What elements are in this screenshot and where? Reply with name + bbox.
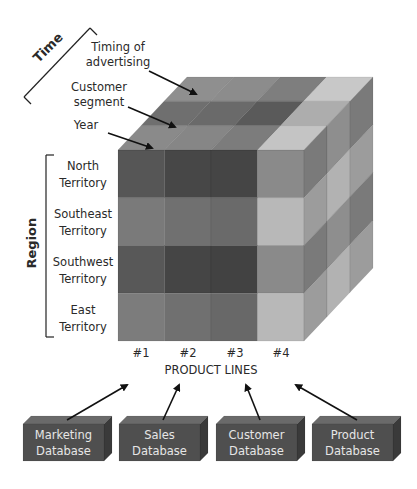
database-arrows (67, 385, 357, 420)
region-item-southeast: Southeast Territory (48, 206, 118, 240)
database-label-line: Database (23, 443, 104, 459)
database-box-top (216, 416, 305, 424)
database-label-line: Database (216, 443, 297, 459)
database-box-side (104, 416, 112, 461)
region-axis-label: Region (24, 223, 39, 269)
cube-cell (118, 198, 165, 246)
region-item-line: Territory (48, 175, 118, 192)
product-column-4: #4 (266, 346, 296, 360)
database-sales: Sales Database (119, 427, 200, 459)
region-item-southwest: Southwest Territory (48, 254, 118, 288)
database-customer: Customer Database (216, 427, 297, 459)
database-product: Product Database (312, 427, 393, 459)
region-item-line: Southeast (48, 206, 118, 223)
region-item-line: Territory (48, 319, 118, 336)
cube-cell (211, 198, 258, 246)
cube-cell (165, 198, 212, 246)
cube-cell (118, 246, 165, 294)
cube-cell (258, 198, 305, 246)
cube-cell (211, 150, 258, 198)
region-item-line: East (48, 302, 118, 319)
time-item-line: Year (70, 118, 102, 133)
cube-cell (258, 293, 305, 341)
database-box-side (200, 416, 208, 461)
product-axis-label: PRODUCT LINES (141, 363, 281, 377)
database-label-line: Database (312, 443, 393, 459)
region-item-east: East Territory (48, 302, 118, 336)
region-item-line: Territory (48, 223, 118, 240)
cube-cell (118, 293, 165, 341)
time-item-line: advertising (80, 55, 156, 70)
region-item-line: North (48, 158, 118, 175)
database-box-side (393, 416, 401, 461)
cube-cell (165, 150, 212, 198)
cube-cell (211, 246, 258, 294)
database-label-line: Customer (216, 427, 297, 443)
time-item-customer-segment: Customer segment (68, 80, 130, 110)
database-label-line: Product (312, 427, 393, 443)
cube-front-face (118, 150, 304, 341)
time-item-line: Customer (68, 80, 130, 95)
region-item-north: North Territory (48, 158, 118, 192)
region-item-line: Southwest (48, 254, 118, 271)
time-item-timing-of-advertising: Timing of advertising (80, 40, 156, 70)
time-item-year: Year (70, 118, 102, 133)
time-item-line: Timing of (80, 40, 156, 55)
database-box-side (297, 416, 305, 461)
cube-cell (211, 293, 258, 341)
cube-cell (165, 293, 212, 341)
olap-cube-diagram (0, 0, 417, 489)
database-label-line: Database (119, 443, 200, 459)
cube-cell (165, 246, 212, 294)
product-column-2: #2 (173, 346, 203, 360)
cube-cell (258, 150, 305, 198)
cube-cell (118, 150, 165, 198)
database-label-line: Marketing (23, 427, 104, 443)
cube-cell (258, 246, 305, 294)
product-column-3: #3 (220, 346, 250, 360)
database-label-line: Sales (119, 427, 200, 443)
database-marketing: Marketing Database (23, 427, 104, 459)
time-item-line: segment (68, 95, 130, 110)
region-item-line: Territory (48, 271, 118, 288)
product-column-1: #1 (126, 346, 156, 360)
